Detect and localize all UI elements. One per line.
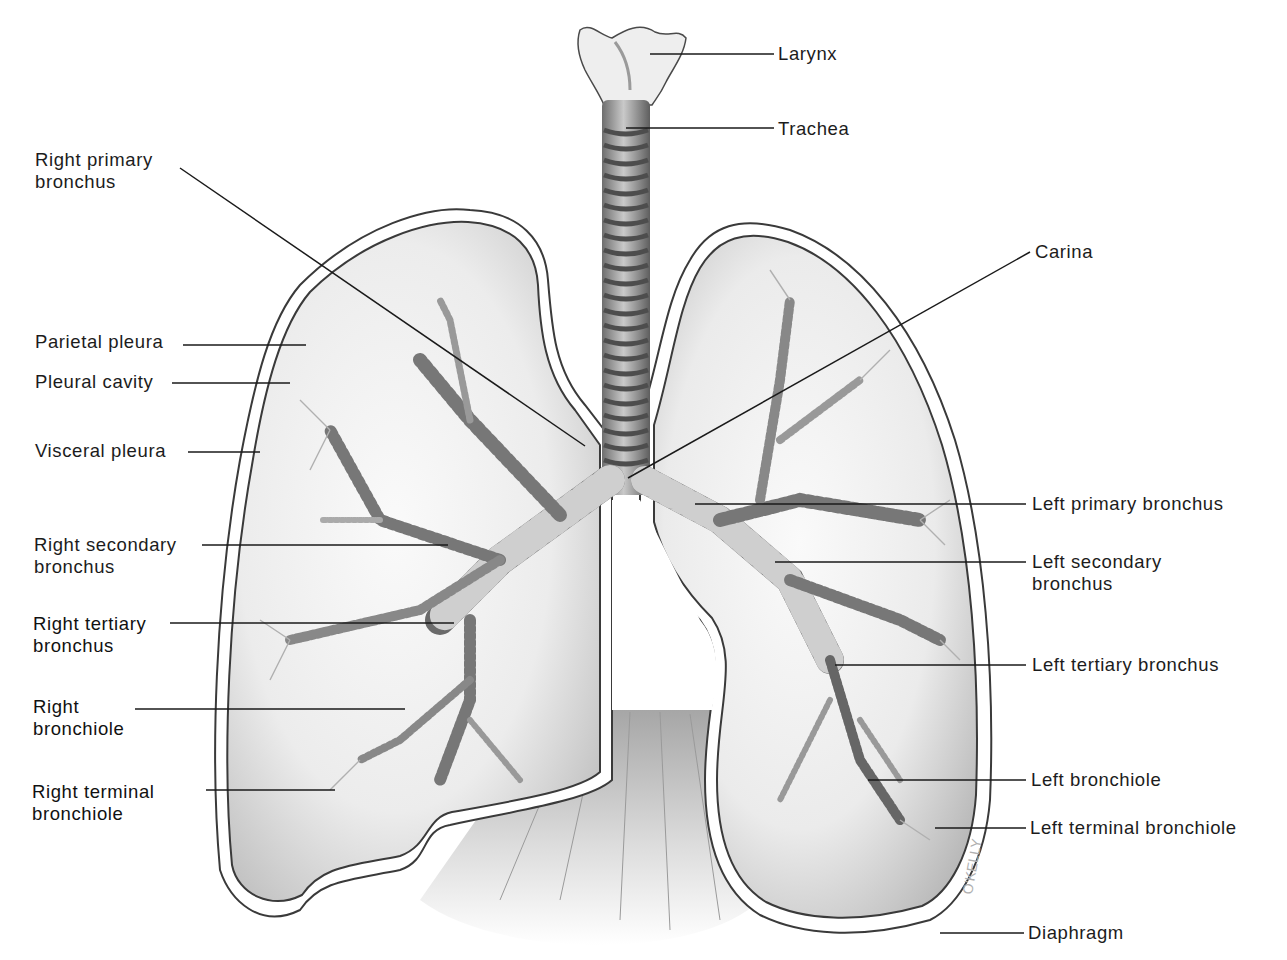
label-left-terminal-bronchiole: Left terminal bronchiole [1030, 817, 1237, 839]
label-left-bronchiole: Left bronchiole [1031, 769, 1161, 791]
label-carina: Carina [1035, 241, 1093, 263]
label-diaphragm: Diaphragm [1028, 922, 1124, 944]
larynx-shape [578, 27, 686, 105]
label-pleural-cavity: Pleural cavity [35, 371, 153, 393]
label-right-terminal-bronchiole: Right terminal bronchiole [32, 781, 155, 825]
label-parietal-pleura: Parietal pleura [35, 331, 163, 353]
label-visceral-pleura: Visceral pleura [35, 440, 166, 462]
label-right-primary-bronchus: Right primary bronchus [35, 149, 153, 193]
label-right-tertiary-bronchus: Right tertiary bronchus [33, 613, 146, 657]
label-trachea: Trachea [778, 118, 849, 140]
label-right-bronchiole: Right bronchiole [33, 696, 124, 740]
label-right-secondary-bronchus: Right secondary bronchus [34, 534, 177, 578]
lung-anatomy-illustration: O'KELLY [0, 0, 1287, 960]
label-left-tertiary-bronchus: Left tertiary bronchus [1032, 654, 1219, 676]
label-left-primary-bronchus: Left primary bronchus [1032, 493, 1224, 515]
label-left-secondary-bronchus: Left secondary bronchus [1032, 551, 1162, 595]
label-larynx: Larynx [778, 43, 837, 65]
